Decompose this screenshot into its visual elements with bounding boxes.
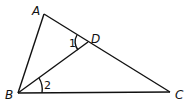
angle-2-arc bbox=[39, 78, 42, 93]
triangle-diagram: A D B C 1 2 bbox=[0, 0, 191, 109]
label-b: B bbox=[5, 88, 13, 102]
label-a: A bbox=[31, 4, 40, 18]
segment-bc bbox=[18, 92, 170, 93]
segment-ac bbox=[44, 14, 170, 92]
angle-1-label: 1 bbox=[69, 37, 76, 50]
angle-2-label: 2 bbox=[44, 79, 51, 92]
label-c: C bbox=[175, 88, 184, 102]
label-d: D bbox=[91, 32, 100, 46]
